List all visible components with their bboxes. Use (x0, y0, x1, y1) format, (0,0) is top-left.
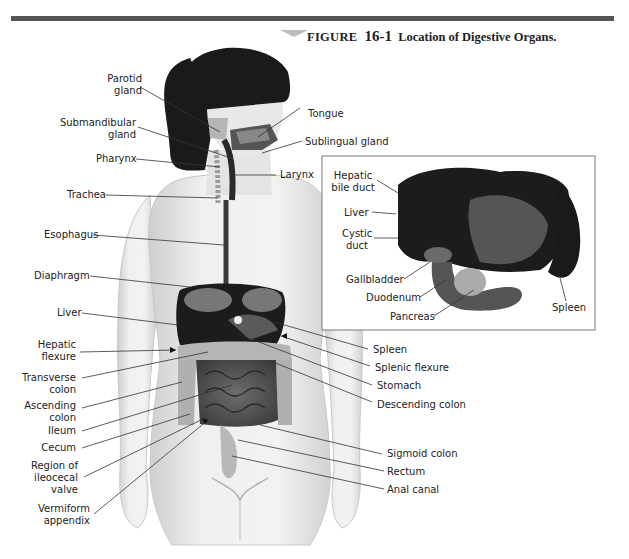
label-sublingual-gland: Sublingual gland (305, 136, 389, 148)
label-ileocecal-valve: Region of ileocecal valve (18, 460, 78, 496)
label-cecum: Cecum (30, 442, 76, 454)
label-line: gland (50, 129, 136, 141)
label-line: gland (98, 85, 142, 97)
label-line: Vermiform (30, 503, 90, 515)
anatomy-illustration (0, 0, 629, 559)
label-tongue: Tongue (308, 108, 344, 120)
label-liver: Liver (57, 307, 82, 319)
inset-label-pancreas: Pancreas (390, 311, 435, 323)
label-rectum: Rectum (387, 466, 425, 478)
inset-label-hepatic-bile-duct: Hepatic bile duct (330, 170, 376, 194)
label-sigmoid-colon: Sigmoid colon (387, 448, 458, 460)
label-larynx: Larynx (280, 169, 314, 181)
label-line: ileocecal (18, 472, 78, 484)
label-esophagus: Esophagus (44, 229, 98, 241)
label-trachea: Trachea (67, 189, 106, 201)
label-line: Submandibular (50, 117, 136, 129)
label-line: flexure (30, 351, 76, 363)
label-vermiform-appendix: Vermiform appendix (30, 503, 90, 527)
label-hepatic-flexure: Hepatic flexure (30, 339, 76, 363)
inset-label-spleen: Spleen (552, 302, 586, 314)
inset-label-gallbladder: Gallbladder (346, 274, 404, 286)
label-anal-canal: Anal canal (387, 484, 439, 496)
label-line: Hepatic (30, 339, 76, 351)
inset-label-cystic-duct: Cystic duct (342, 228, 372, 252)
label-line: colon (18, 384, 76, 396)
label-splenic-flexure: Splenic flexure (375, 362, 449, 374)
label-line: appendix (30, 515, 90, 527)
label-submandibular-gland: Submandibular gland (50, 117, 136, 141)
label-line: valve (18, 484, 78, 496)
label-stomach: Stomach (377, 380, 421, 392)
label-line: Parotid (98, 73, 142, 85)
label-line: Transverse (18, 372, 76, 384)
label-ileum: Ileum (30, 425, 76, 437)
label-line: Ascending (18, 400, 76, 412)
label-line: bile duct (330, 182, 376, 194)
label-line: colon (18, 412, 76, 424)
label-line: Cystic (342, 228, 372, 240)
inset-label-duodenum: Duodenum (366, 292, 421, 304)
label-ascending-colon: Ascending colon (18, 400, 76, 424)
label-pharynx: Pharynx (96, 153, 137, 165)
label-transverse-colon: Transverse colon (18, 372, 76, 396)
inset-label-liver: Liver (344, 207, 369, 219)
label-line: duct (342, 240, 372, 252)
label-diaphragm: Diaphragm (34, 270, 90, 282)
label-line: Region of (18, 460, 78, 472)
label-spleen: Spleen (373, 344, 407, 356)
label-line: Hepatic (330, 170, 376, 182)
label-descending-colon: Descending colon (377, 399, 466, 411)
label-parotid-gland: Parotid gland (98, 73, 142, 97)
